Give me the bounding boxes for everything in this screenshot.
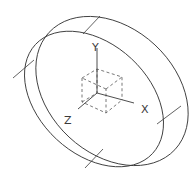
- back-ellipse: [6, 0, 189, 184]
- x-axis: [97, 93, 134, 103]
- drawing-canvas: Y X Z: [0, 0, 189, 184]
- ring-drawing: Y X Z: [0, 0, 189, 184]
- x-axis-label: X: [141, 103, 149, 116]
- z-axis-label: Z: [64, 114, 72, 127]
- y-axis-label: Y: [91, 41, 99, 54]
- dashed-cube: [82, 69, 122, 113]
- front-ellipse: [0, 4, 189, 184]
- z-axis: [78, 93, 97, 109]
